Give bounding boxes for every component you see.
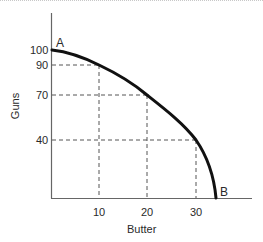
point-a-label: A — [56, 37, 64, 49]
reference-lines — [52, 65, 196, 198]
x-tick-20: 20 — [141, 207, 153, 218]
x-axis-label: Butter — [127, 224, 156, 235]
x-tick-10: 10 — [93, 207, 105, 218]
y-tick-100: 100 — [30, 45, 48, 56]
y-tick-40: 40 — [36, 135, 48, 146]
ppf-curve — [52, 50, 216, 198]
y-axis-label: Guns — [9, 93, 21, 119]
y-tick-70: 70 — [36, 90, 48, 101]
ppf-chart — [0, 0, 263, 242]
point-b-label: B — [220, 186, 228, 198]
y-tick-90: 90 — [36, 60, 48, 71]
x-tick-30: 30 — [190, 207, 202, 218]
